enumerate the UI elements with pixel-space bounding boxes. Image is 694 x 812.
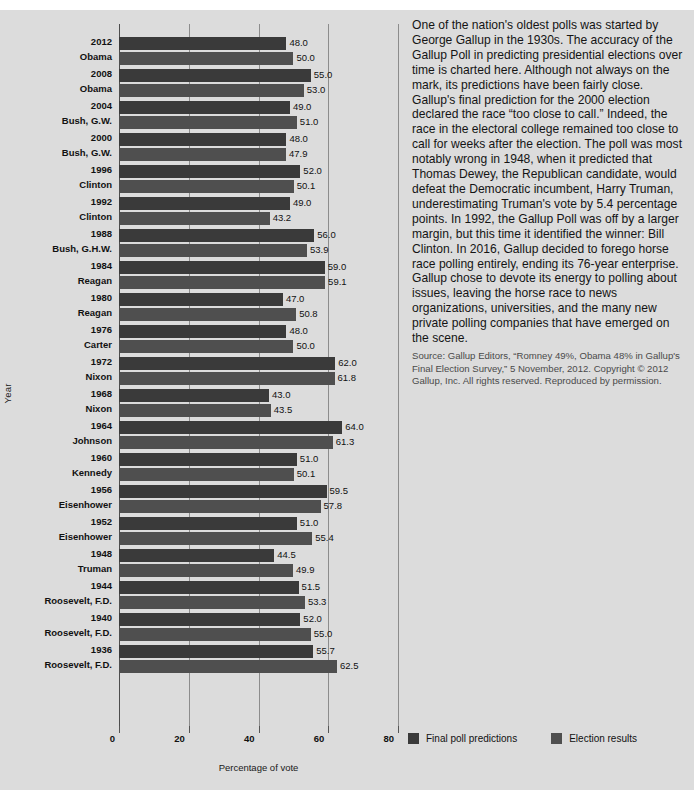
x-tick-mark xyxy=(328,726,329,733)
legend-item[interactable]: Final poll predictions xyxy=(408,733,517,744)
bar-value-label: 61.3 xyxy=(336,436,355,447)
bar-final-poll-prediction xyxy=(119,133,286,146)
bar-value-label: 44.5 xyxy=(277,549,296,560)
bar-group-year: 1988 xyxy=(52,227,112,242)
bar-group-label: 2012Obama xyxy=(80,35,112,64)
bar-group-label: 1988Bush, G.H.W. xyxy=(52,227,112,256)
x-tick-mark xyxy=(189,726,190,733)
bar-group-label: 1972Nixon xyxy=(86,355,112,384)
x-tick-mark xyxy=(119,726,120,733)
text-panel: One of the nation's oldest polls was sta… xyxy=(412,18,684,388)
bar-value-label: 47.0 xyxy=(286,293,305,304)
bar-group-candidate: Nixon xyxy=(86,402,112,417)
bar-group-candidate: Bush, G.W. xyxy=(62,146,112,161)
bar-group-label: 2008Obama xyxy=(80,67,112,96)
chart-panel: Year 2012Obama48.050.02008Obama55.053.02… xyxy=(0,10,412,790)
bar-group-label: 1948Truman xyxy=(78,547,112,576)
panel-divider xyxy=(398,24,399,726)
x-axis-ticks: 020406080 xyxy=(119,726,398,746)
bar-election-result xyxy=(119,148,286,161)
bar-value-label: 53.3 xyxy=(308,596,327,607)
bar-group-candidate: Truman xyxy=(78,562,112,577)
bar-group-year: 1936 xyxy=(44,643,112,658)
bar-election-result xyxy=(119,84,304,97)
bar-group-label: 2000Bush, G.W. xyxy=(62,131,112,160)
bar-group-candidate: Roosevelt, F.D. xyxy=(44,626,112,641)
bar-value-label: 50.0 xyxy=(296,340,315,351)
bar-election-result xyxy=(119,244,307,257)
source-note: Source: Gallup Editors, “Romney 49%, Oba… xyxy=(412,350,684,388)
bar-value-label: 55.4 xyxy=(315,532,334,543)
bar-group-label: 1996Clinton xyxy=(79,163,112,192)
bar-election-result xyxy=(119,308,296,321)
bar-value-label: 48.0 xyxy=(289,37,308,48)
bar-group: 1940Roosevelt, F.D.52.055.0 xyxy=(119,612,598,644)
bar-group: 1956Eisenhower59.557.8 xyxy=(119,484,598,516)
x-tick-label: 80 xyxy=(383,733,398,744)
bar-group-year: 1952 xyxy=(59,515,112,530)
legend-item[interactable]: Election results xyxy=(551,733,637,744)
bar-value-label: 50.8 xyxy=(299,308,318,319)
bar-group-candidate: Reagan xyxy=(78,306,112,321)
bar-value-label: 53.9 xyxy=(310,244,329,255)
bar-group-label: 1940Roosevelt, F.D. xyxy=(44,611,112,640)
bar-group-label: 1960Kennedy xyxy=(72,451,112,480)
bar-final-poll-prediction xyxy=(119,549,274,562)
bar-election-result xyxy=(119,564,293,577)
bar-group-label: 1992Clinton xyxy=(79,195,112,224)
bar-group-year: 1940 xyxy=(44,611,112,626)
bar-final-poll-prediction xyxy=(119,357,335,370)
bar-final-poll-prediction xyxy=(119,229,314,242)
bar-value-label: 59.5 xyxy=(330,485,349,496)
x-tick-mark xyxy=(259,726,260,733)
bar-group-year: 1984 xyxy=(78,259,112,274)
bar-group-year: 1996 xyxy=(79,163,112,178)
bar-election-result xyxy=(119,372,335,385)
chart-legend: Final poll predictionsElection results xyxy=(408,733,637,744)
body-text: One of the nation's oldest polls was sta… xyxy=(412,18,684,346)
plot-area: 2012Obama48.050.02008Obama55.053.02004Bu… xyxy=(119,24,398,726)
bar-group-candidate: Obama xyxy=(80,50,112,65)
bar-group-label: 1980Reagan xyxy=(78,291,112,320)
legend-label: Final poll predictions xyxy=(426,733,517,744)
x-tick-label: 40 xyxy=(244,733,259,744)
bar-group-year: 1964 xyxy=(72,419,112,434)
bar-group-candidate: Bush, G.W. xyxy=(62,114,112,129)
bar-value-label: 48.0 xyxy=(289,325,308,336)
bar-group-year: 2012 xyxy=(80,35,112,50)
bar-final-poll-prediction xyxy=(119,165,300,178)
x-axis-title: Percentage of vote xyxy=(119,762,398,773)
bar-value-label: 57.8 xyxy=(324,500,343,511)
bar-election-result xyxy=(119,340,293,353)
bar-final-poll-prediction xyxy=(119,293,283,306)
bar-group-year: 1980 xyxy=(78,291,112,306)
bar-final-poll-prediction xyxy=(119,613,300,626)
bar-value-label: 62.5 xyxy=(340,660,359,671)
bar-group-label: 1968Nixon xyxy=(86,387,112,416)
bar-group-candidate: Nixon xyxy=(86,370,112,385)
figure-container: Year 2012Obama48.050.02008Obama55.053.02… xyxy=(0,10,694,790)
bar-group-candidate: Reagan xyxy=(78,274,112,289)
bar-group-candidate: Bush, G.H.W. xyxy=(52,242,112,257)
bar-group-label: 1952Eisenhower xyxy=(59,515,112,544)
bar-value-label: 52.0 xyxy=(303,613,322,624)
bar-group-candidate: Clinton xyxy=(79,178,112,193)
bar-final-poll-prediction xyxy=(119,261,325,274)
bar-value-label: 64.0 xyxy=(345,421,364,432)
bar-group-candidate: Roosevelt, F.D. xyxy=(44,658,112,673)
bar-group-label: 2004Bush, G.W. xyxy=(62,99,112,128)
bar-group-label: 1944Roosevelt, F.D. xyxy=(44,579,112,608)
bar-group: 1948Truman44.549.9 xyxy=(119,548,598,580)
bar-value-label: 51.5 xyxy=(302,581,321,592)
bar-final-poll-prediction xyxy=(119,389,269,402)
bar-group-candidate: Carter xyxy=(84,338,112,353)
bar-value-label: 49.0 xyxy=(293,197,312,208)
bar-final-poll-prediction xyxy=(119,69,311,82)
legend-swatch-icon xyxy=(408,733,419,744)
bar-final-poll-prediction xyxy=(119,101,290,114)
bar-value-label: 49.0 xyxy=(293,101,312,112)
bar-final-poll-prediction xyxy=(119,517,297,530)
bar-group-year: 1960 xyxy=(72,451,112,466)
page-top-margin xyxy=(0,0,694,10)
bar-group-candidate: Obama xyxy=(80,82,112,97)
